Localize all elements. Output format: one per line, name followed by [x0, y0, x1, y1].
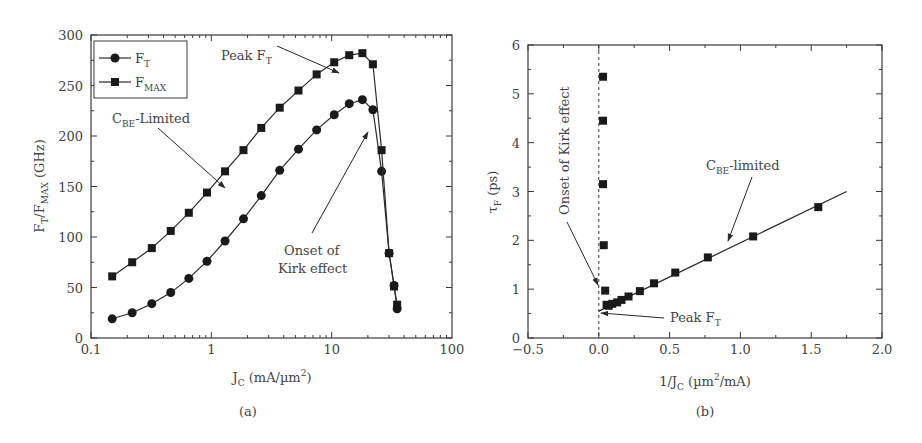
data-point: [378, 146, 386, 154]
data-point: [167, 227, 175, 235]
data-point: [599, 73, 607, 81]
data-point: [599, 180, 607, 188]
y-tick-label: 3: [512, 185, 520, 200]
y-axis-label-b: τF (ps): [485, 171, 503, 214]
data-point: [330, 58, 338, 66]
annot-kirk-line1-a: Onset of: [284, 243, 341, 258]
data-point: [650, 279, 658, 287]
annot-cbe-limited-b: CBE-limited: [706, 158, 780, 176]
figure: 0.1110100050100150200250300 FT FMAX Peak…: [0, 0, 922, 443]
chart-a: 0.1110100050100150200250300 FT FMAX Peak…: [32, 28, 464, 419]
y-tick-label: 0: [75, 331, 83, 346]
data-point: [276, 104, 284, 112]
y-tick-label: 4: [512, 136, 520, 151]
data-point: [385, 249, 393, 257]
data-point: [749, 232, 757, 240]
data-point: [275, 166, 284, 175]
y-tick-label: 5: [512, 87, 520, 102]
data-point: [221, 237, 230, 246]
data-point: [368, 105, 377, 114]
data-point: [147, 299, 156, 308]
arrow-cbe-a: [158, 128, 225, 188]
data-point: [330, 110, 339, 119]
data-point: [814, 203, 822, 211]
data-point: [239, 146, 247, 154]
x-tick-label: 0.1: [81, 342, 102, 357]
x-tick-label: 0.5: [659, 342, 680, 357]
annot-peak-ft-b: Peak FT: [670, 310, 721, 328]
legend-circle-marker: [111, 54, 120, 63]
annot-kirk-b: Onset of Kirk effect: [557, 85, 572, 215]
series-b: [599, 73, 847, 311]
plot-frame-b: [528, 45, 882, 338]
y-axis-label-a: FT/FMAX (GHz): [32, 139, 50, 232]
data-point: [185, 209, 193, 217]
data-point: [393, 301, 401, 309]
y-tick-label: 200: [58, 129, 83, 144]
y-tick-label: 6: [512, 38, 520, 53]
annot-peak-ft-a: Peak FT: [221, 48, 272, 66]
x-tick-label: 1: [207, 342, 215, 357]
x-tick-label: 0.0: [588, 342, 609, 357]
chart-b: −0.50.00.51.01.52.00123456 Onset of Kirk…: [485, 38, 892, 419]
series-line: [112, 100, 397, 319]
arrow-kirk-a: [312, 132, 368, 233]
data-point: [148, 244, 156, 252]
data-point: [239, 214, 248, 223]
data-point: [313, 70, 321, 78]
axis-ticks-b: [528, 45, 882, 338]
y-tick-label: 250: [58, 79, 83, 94]
x-tick-label: 1.0: [730, 342, 751, 357]
annot-kirk-line2-a: Kirk effect: [278, 261, 348, 276]
data-point: [377, 167, 386, 176]
x-axis-label-b: 1/JC (µm2/mA): [659, 372, 751, 392]
data-point: [600, 241, 608, 249]
data-point: [636, 287, 644, 295]
data-point: [345, 99, 354, 108]
y-tick-label: 0: [512, 331, 520, 346]
data-point: [108, 272, 116, 280]
data-point: [128, 258, 136, 266]
data-point: [345, 51, 353, 59]
data-point: [358, 95, 367, 104]
data-point: [294, 87, 302, 95]
legend-a: FT FMAX: [94, 41, 187, 98]
data-point: [625, 292, 633, 300]
data-point: [617, 296, 625, 304]
x-tick-label: 10: [323, 342, 340, 357]
data-point: [369, 60, 377, 68]
y-tick-label: 1: [512, 282, 520, 297]
data-point: [257, 124, 265, 132]
arrow-peak-a: [277, 46, 339, 73]
x-tick-label: 2.0: [872, 342, 893, 357]
data-point: [358, 49, 366, 57]
caption-a: (a): [239, 404, 257, 419]
data-point: [390, 282, 398, 290]
data-point: [312, 125, 321, 134]
arrow-peak-b: [601, 313, 664, 318]
data-point: [599, 117, 607, 125]
legend-square-marker: [111, 78, 119, 86]
data-point: [202, 257, 211, 266]
y-tick-label: 100: [58, 230, 83, 245]
x-tick-label: 1.5: [801, 342, 822, 357]
data-point: [203, 189, 211, 197]
data-point: [671, 269, 679, 277]
x-axis-label-a: JC (mA/µm2): [231, 368, 312, 388]
x-tick-label: 100: [440, 342, 465, 357]
y-tick-label: 2: [512, 233, 520, 248]
caption-b: (b): [696, 404, 714, 419]
data-point: [184, 274, 193, 283]
data-point: [601, 287, 609, 295]
y-tick-label: 50: [66, 281, 83, 296]
data-point: [108, 314, 117, 323]
data-point: [166, 288, 175, 297]
data-point: [221, 167, 229, 175]
arrow-cbe-b: [728, 177, 752, 241]
arrow-kirk-b: [567, 222, 598, 285]
data-point: [128, 308, 137, 317]
y-tick-label: 300: [58, 28, 83, 43]
data-point: [294, 145, 303, 154]
y-tick-label: 150: [58, 180, 83, 195]
data-point: [257, 191, 266, 200]
